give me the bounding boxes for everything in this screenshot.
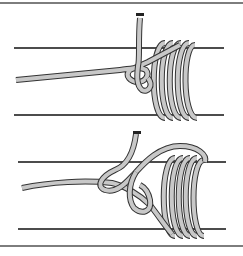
panel-step-2	[18, 131, 226, 236]
coils	[164, 158, 204, 236]
tag-end-icon	[136, 13, 144, 16]
panel-step-1	[14, 13, 224, 118]
knot-diagram	[0, 0, 243, 256]
tag-end-icon	[133, 131, 141, 134]
